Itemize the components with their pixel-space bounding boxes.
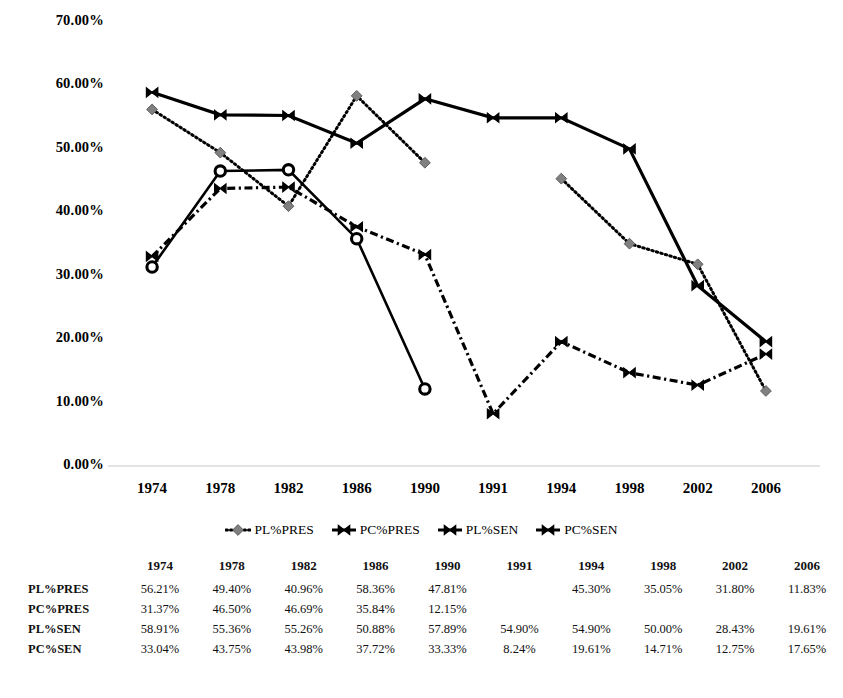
table-row-header: PL%SEN: [0, 619, 124, 639]
table-cell: 47.81%: [412, 579, 484, 599]
table-row-header: PC%SEN: [0, 639, 124, 659]
table-cell: 33.04%: [124, 639, 196, 659]
table-column-header: 1994: [555, 556, 627, 579]
table-column-header: 2002: [699, 556, 771, 579]
table-cell: 43.75%: [196, 639, 268, 659]
table-cell: 37.72%: [340, 639, 412, 659]
table-row-header: PL%PRES: [0, 579, 124, 599]
table-cell: 12.75%: [699, 639, 771, 659]
legend-item[interactable]: PL%PRES: [225, 522, 313, 538]
legend-marker-icon: [437, 523, 463, 537]
table-cell: 46.50%: [196, 599, 268, 619]
table-cell: 50.00%: [627, 619, 699, 639]
table-cell: 19.61%: [555, 639, 627, 659]
legend-item[interactable]: PL%SEN: [437, 522, 519, 538]
table-cell: [483, 579, 555, 599]
table-cell: 28.43%: [699, 619, 771, 639]
legend-item-label: PC%SEN: [564, 522, 617, 538]
chart-container: 0.00%10.00%20.00%30.00%40.00%50.00%60.00…: [0, 0, 843, 698]
table-column-header: 1982: [268, 556, 340, 579]
table-column-header: 1978: [196, 556, 268, 579]
line-chart-canvas: [0, 0, 843, 512]
table-column-header: 1998: [627, 556, 699, 579]
chart-legend: PL%PRESPC%PRESPL%SENPC%SEN: [0, 518, 843, 542]
table-cell: 56.21%: [124, 579, 196, 599]
table-cell: 45.30%: [555, 579, 627, 599]
table-row: PC%SEN33.04%43.75%43.98%37.72%33.33%8.24…: [0, 639, 843, 659]
table-column-header: 1991: [483, 556, 555, 579]
table-row: PC%PRES31.37%46.50%46.69%35.84%12.15%: [0, 599, 843, 619]
table-cell: 17.65%: [771, 639, 843, 659]
table-cell: 8.24%: [483, 639, 555, 659]
table-column-header: 1974: [124, 556, 196, 579]
table-row-header: PC%PRES: [0, 599, 124, 619]
table-cell: 50.88%: [340, 619, 412, 639]
table-cell: 35.05%: [627, 579, 699, 599]
table-cell: 14.71%: [627, 639, 699, 659]
legend-item-label: PC%PRES: [360, 522, 420, 538]
table-cell: 11.83%: [771, 579, 843, 599]
table-cell: 49.40%: [196, 579, 268, 599]
table-header-row: 1974197819821986199019911994199820022006: [0, 556, 843, 579]
table-cell: 54.90%: [483, 619, 555, 639]
table-column-header: 1986: [340, 556, 412, 579]
table-cell: 43.98%: [268, 639, 340, 659]
legend-item[interactable]: PC%SEN: [535, 522, 617, 538]
table-cell: 35.84%: [340, 599, 412, 619]
table-cell: 58.91%: [124, 619, 196, 639]
table-cell: 19.61%: [771, 619, 843, 639]
table-row: PL%SEN58.91%55.36%55.26%50.88%57.89%54.9…: [0, 619, 843, 639]
table-cell: [627, 599, 699, 619]
table-cell: 55.36%: [196, 619, 268, 639]
table-cell: [483, 599, 555, 619]
table-cell: 31.37%: [124, 599, 196, 619]
legend-item[interactable]: PC%PRES: [331, 522, 420, 538]
table-column-header: 2006: [771, 556, 843, 579]
table-cell: 33.33%: [412, 639, 484, 659]
series-pc-pres: [147, 165, 430, 394]
table-column-header: 1990: [412, 556, 484, 579]
table-cell: 57.89%: [412, 619, 484, 639]
table-cell: [771, 599, 843, 619]
table-cell: 54.90%: [555, 619, 627, 639]
series-pl-sen: [147, 88, 772, 346]
table-cell: 58.36%: [340, 579, 412, 599]
legend-item-label: PL%PRES: [254, 522, 313, 538]
table-cell: [555, 599, 627, 619]
data-table: 1974197819821986199019911994199820022006…: [0, 556, 843, 659]
table-cell: 40.96%: [268, 579, 340, 599]
series-pc-sen: [147, 183, 772, 418]
table-cell: 12.15%: [412, 599, 484, 619]
plot-area: 0.00%10.00%20.00%30.00%40.00%50.00%60.00…: [0, 0, 843, 512]
legend-marker-icon: [331, 523, 357, 537]
table-row: PL%PRES56.21%49.40%40.96%58.36%47.81%45.…: [0, 579, 843, 599]
table-cell: 31.80%: [699, 579, 771, 599]
legend-item-label: PL%SEN: [466, 522, 519, 538]
legend-marker-icon: [535, 523, 561, 537]
legend-marker-icon: [225, 523, 251, 537]
table-cell: 46.69%: [268, 599, 340, 619]
table-corner-cell: [0, 556, 124, 579]
table-cell: [699, 599, 771, 619]
table-cell: 55.26%: [268, 619, 340, 639]
